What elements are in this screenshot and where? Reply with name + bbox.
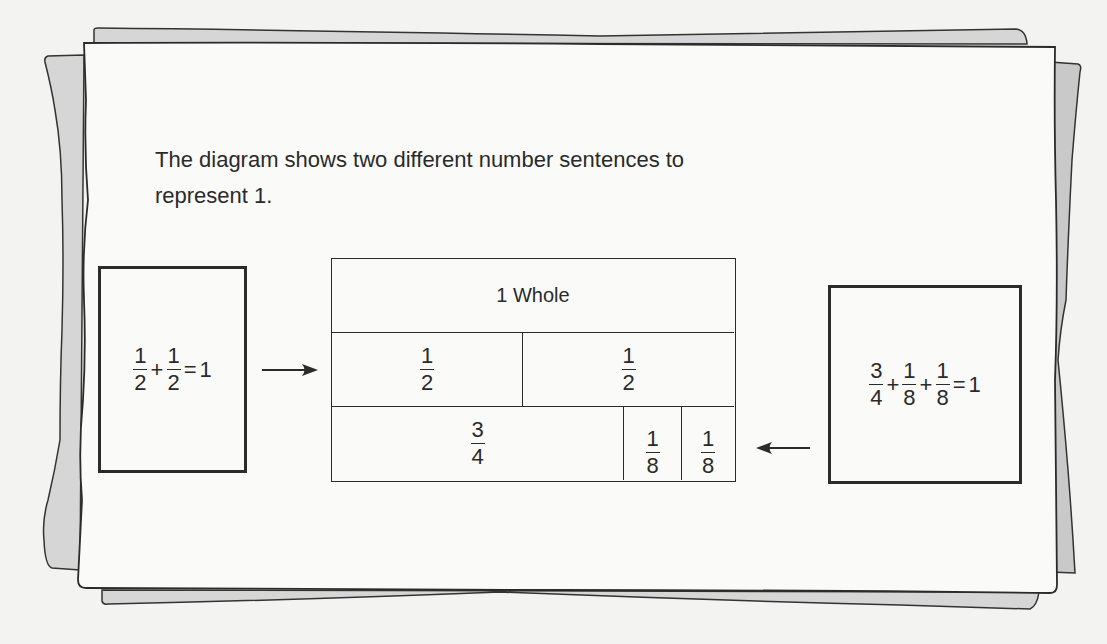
numerator: 1 <box>621 345 635 367</box>
intro-line-2: represent 1. <box>155 178 835 214</box>
half-cell: 1 2 <box>523 333 734 407</box>
equals-sign: = <box>181 357 200 383</box>
whole-label: 1 Whole <box>496 284 569 307</box>
denominator: 8 <box>902 387 916 409</box>
fraction-one-half: 1 2 <box>133 345 147 395</box>
denominator: 4 <box>470 446 484 468</box>
three-quarters-cell: 3 4 <box>332 407 624 480</box>
denominator: 8 <box>701 455 715 477</box>
numerator: 1 <box>935 360 949 382</box>
eighth-cell: 1 8 <box>624 407 682 480</box>
numerator: 1 <box>645 428 659 450</box>
fraction-one-half: 1 2 <box>420 345 434 395</box>
fraction-one-half: 1 2 <box>166 345 180 395</box>
intro-text: The diagram shows two different number s… <box>155 142 835 214</box>
intro-line-1: The diagram shows two different number s… <box>155 142 835 178</box>
fraction-one-half: 1 2 <box>621 345 635 395</box>
fraction-bar-model: 1 Whole 1 2 1 2 3 4 1 8 1 <box>331 258 736 482</box>
denominator: 8 <box>645 455 659 477</box>
denominator: 2 <box>166 372 180 394</box>
numerator: 1 <box>420 345 434 367</box>
numerator: 1 <box>133 345 147 367</box>
fraction-one-eighth: 1 8 <box>902 360 916 410</box>
whole-cell: 1 Whole <box>332 259 734 333</box>
fraction-one-eighth: 1 8 <box>701 428 715 478</box>
denominator: 8 <box>935 387 949 409</box>
plus-sign: + <box>883 372 902 398</box>
numerator: 1 <box>902 360 916 382</box>
plus-sign: + <box>148 357 167 383</box>
equals-sign: = <box>950 372 969 398</box>
right-number-sentence-box: 3 4 + 1 8 + 1 8 = 1 <box>828 285 1022 484</box>
denominator: 4 <box>869 387 883 409</box>
denominator: 2 <box>420 372 434 394</box>
fraction-three-quarters: 3 4 <box>470 419 484 469</box>
numerator: 1 <box>166 345 180 367</box>
right-equation: 3 4 + 1 8 + 1 8 = 1 <box>869 360 981 410</box>
eighth-cell: 1 8 <box>682 407 734 480</box>
fraction-one-eighth: 1 8 <box>935 360 949 410</box>
denominator: 2 <box>621 372 635 394</box>
numerator: 3 <box>470 419 484 441</box>
result-value: 1 <box>969 372 981 398</box>
fraction-three-quarters: 3 4 <box>869 360 883 410</box>
result-value: 1 <box>199 357 211 383</box>
arrow-right-icon <box>260 362 322 378</box>
left-equation: 1 2 + 1 2 = 1 <box>133 345 211 395</box>
half-cell: 1 2 <box>332 333 523 407</box>
left-number-sentence-box: 1 2 + 1 2 = 1 <box>98 266 247 473</box>
fraction-one-eighth: 1 8 <box>645 428 659 478</box>
plus-sign: + <box>917 372 936 398</box>
denominator: 2 <box>133 372 147 394</box>
numerator: 1 <box>701 428 715 450</box>
numerator: 3 <box>869 360 883 382</box>
arrow-left-icon <box>752 440 814 456</box>
